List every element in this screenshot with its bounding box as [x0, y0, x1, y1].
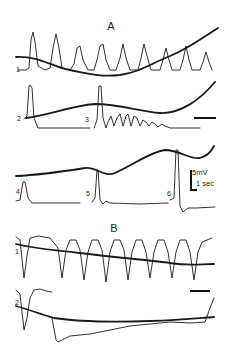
- trace-b2-slow-line: [16, 306, 214, 322]
- trace-a4-slow-wave: [16, 146, 214, 176]
- trace-label-a6: 6: [167, 190, 171, 197]
- trace-b1-deflections: [16, 236, 212, 282]
- trace-label-a1: 1: [16, 66, 20, 73]
- trace-label-a2: 2: [17, 115, 21, 122]
- trace-a2-slow-wave: [26, 82, 215, 118]
- trace-label-a3: 3: [85, 116, 89, 123]
- panel-a-label: A: [107, 20, 115, 32]
- trace-label-a4: 4: [16, 188, 20, 195]
- trace-label-b1: 1: [15, 248, 19, 255]
- trace-a4-spike: [16, 182, 80, 203]
- panel-b-label: B: [110, 222, 117, 234]
- scale-voltage: 5mV: [192, 168, 207, 177]
- trace-label-a5: 5: [86, 190, 90, 197]
- trace-b1-slow-line: [16, 244, 214, 265]
- figure: A 1 2 3 4 5 6 5mV 1 sec B 1 2: [0, 0, 230, 362]
- trace-label-b2: 2: [15, 299, 19, 306]
- trace-a1-spikes: [18, 32, 212, 70]
- trace-b2-deflection: [16, 289, 52, 330]
- scale-time: 1 sec: [196, 179, 214, 188]
- trace-a5-spike: [92, 170, 168, 204]
